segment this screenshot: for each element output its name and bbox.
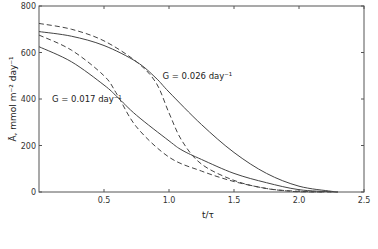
- x-tick-label: 0.5: [98, 196, 111, 205]
- annotations: G = 0.026 day⁻¹G = 0.017 day⁻¹: [52, 71, 232, 104]
- x-axis-title: t/τ: [202, 210, 214, 220]
- y-tick-label: 600: [21, 49, 36, 58]
- annotation-label: G = 0.017 day⁻¹: [52, 94, 122, 104]
- x-tick-label: 1.0: [163, 196, 176, 205]
- annotation-label: G = 0.026 day⁻¹: [163, 71, 233, 81]
- x-tick-label: 2.0: [293, 196, 306, 205]
- series-line: [39, 32, 338, 192]
- line-chart: 0200400600800 0.51.01.52.02.5 G = 0.026 …: [0, 0, 378, 249]
- x-tick-label: 2.5: [358, 196, 371, 205]
- data-series: [39, 23, 338, 192]
- x-tick-label: 1.5: [228, 196, 241, 205]
- series-line: [39, 35, 325, 192]
- series-line: [39, 23, 332, 192]
- y-tick-label: 0: [31, 188, 36, 197]
- y-axis-title: Ā, mmol m⁻² day⁻¹: [8, 56, 18, 142]
- y-tick-label: 400: [21, 95, 36, 104]
- x-axis-ticks: 0.51.01.52.02.5: [98, 6, 371, 205]
- series-line: [39, 47, 338, 192]
- y-tick-label: 200: [21, 142, 36, 151]
- y-tick-label: 800: [21, 2, 36, 11]
